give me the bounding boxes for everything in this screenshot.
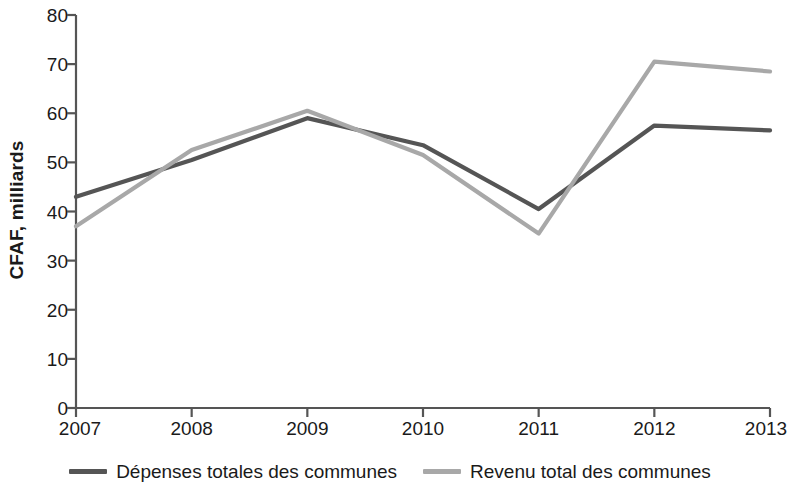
- x-tick-label: 2013: [745, 419, 787, 438]
- legend-swatch-icon: [69, 469, 107, 474]
- x-tick-label: 2010: [402, 419, 444, 438]
- chart-legend: Dépenses totales des communesRevenu tota…: [0, 452, 780, 490]
- x-axis-tick-labels: 2007200820092010201120122013: [0, 419, 780, 445]
- series-line-2: [76, 62, 770, 234]
- axes-group: [67, 15, 770, 417]
- x-tick-label: 2011: [518, 419, 559, 438]
- x-tick-label: 2008: [171, 419, 213, 438]
- x-tick-label: 2009: [286, 419, 328, 438]
- plot-area: [0, 0, 780, 420]
- legend-label: Revenu total des communes: [470, 462, 711, 481]
- x-tick-label: 2007: [59, 419, 101, 438]
- series-line-1: [76, 118, 770, 209]
- legend-item[interactable]: Dépenses totales des communes: [69, 462, 397, 481]
- legend-label: Dépenses totales des communes: [116, 462, 397, 481]
- x-tick-label: 2012: [633, 419, 675, 438]
- legend-swatch-icon: [423, 469, 461, 474]
- series-group: [76, 62, 770, 234]
- legend-item[interactable]: Revenu total des communes: [423, 462, 711, 481]
